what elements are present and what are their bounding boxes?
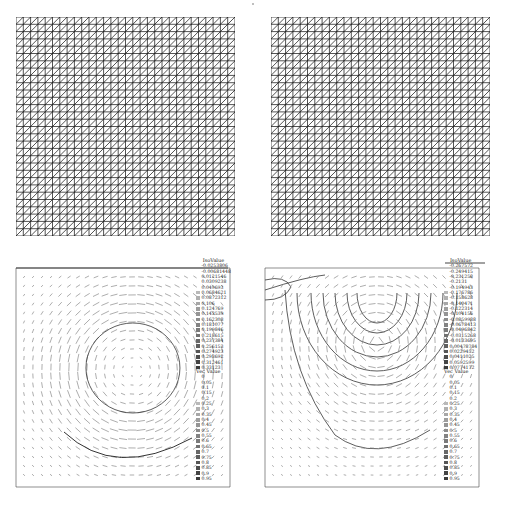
legend-swatch [444,402,448,406]
legend-swatch [444,418,448,422]
legend-value: 0.95 [202,476,212,481]
iso-legend: IsoValue -0.267572-0.249415-0.231258-0.2… [444,258,477,370]
legend-swatch [196,434,200,438]
legend-swatch [444,477,448,481]
iso-contour [347,293,407,333]
legend-swatch [444,445,448,449]
velocity-plot-right: IsoValue -0.267572-0.249415-0.231258-0.2… [255,255,511,505]
legend-swatch [444,323,448,327]
legend-swatch [444,466,448,470]
legend-swatch [196,402,200,406]
legend-swatch [196,334,200,338]
legend-swatch [196,439,200,443]
legend-swatch [444,302,448,306]
mesh-left [16,17,235,236]
legend-swatch [196,275,200,279]
iso-contour [265,279,291,300]
legend-swatch [196,302,200,306]
legend-swatch [196,466,200,470]
iso-contour [311,293,443,371]
legend-swatch [196,477,200,481]
legend-swatch [444,296,448,300]
triangular-mesh [16,17,235,236]
legend-swatch [444,286,448,290]
iso-legend: IsoValue -0.0253806-0.006814480.01215460… [196,258,231,370]
legend-swatch [196,355,200,359]
legend-value: 0.95 [450,476,460,481]
legend-swatch [196,381,200,385]
legend-swatch [444,407,448,411]
legend-swatch [444,344,448,348]
legend-swatch [444,381,448,385]
legend-swatch [444,291,448,295]
legend-swatch [444,386,448,390]
iso-legend-rows: -0.267572-0.249415-0.231258-0.2131-0.194… [444,263,477,370]
legend-swatch [444,334,448,338]
legend-swatch [196,375,200,379]
legend-swatch [196,296,200,300]
legend-swatch [444,280,448,284]
legend-swatch [444,350,448,354]
legend-swatch [444,355,448,359]
legend-swatch [196,360,200,364]
legend-swatch [196,418,200,422]
legend-swatch [444,312,448,316]
iso-legend-rows: -0.0253806-0.006814480.01215460.03092380… [196,263,231,370]
legend-swatch [444,318,448,322]
legend-swatch [444,328,448,332]
legend-swatch [444,270,448,274]
iso-contour [357,293,397,323]
legend-swatch [444,429,448,433]
legend-swatch [444,439,448,443]
vec-legend-rows: 00.050.10.150.20.250.30.350.40.450.50.55… [196,374,220,481]
legend-swatch [196,429,200,433]
iso-contour [323,293,431,357]
legend-swatch [444,434,448,438]
legend-swatch [196,264,200,268]
iso-contour [86,323,180,413]
legend-swatch [196,391,200,395]
legend-swatch [444,339,448,343]
vec-legend-title: Vec Value [196,369,220,374]
legend-swatch [196,407,200,411]
vec-legend: Vec Value 00.050.10.150.20.250.30.350.40… [444,369,468,481]
legend-swatch [444,423,448,427]
legend-swatch [444,455,448,459]
legend-swatch [444,264,448,268]
legend-swatch [444,307,448,311]
velocity-vectors [23,276,223,476]
velocity-plot-left: IsoValue -0.0253806-0.006814480.01215460… [0,255,260,505]
vec-legend-title: Vec Value [444,369,468,374]
legend-swatch [196,450,200,454]
legend-swatch [444,471,448,475]
legend-swatch [196,344,200,348]
legend-swatch [196,471,200,475]
legend-swatch [196,323,200,327]
legend-swatch [196,328,200,332]
iso-contour [265,275,325,290]
legend-swatch [444,397,448,401]
legend-swatch [196,307,200,311]
vec-legend: Vec Value 00.050.10.150.20.250.30.350.40… [196,369,220,481]
iso-contour [64,432,192,458]
legend-swatch [444,450,448,454]
legend-swatch [444,413,448,417]
legend-swatch [196,291,200,295]
legend-swatch [196,397,200,401]
mesh-right [271,17,490,236]
legend-swatch [196,413,200,417]
legend-swatch [196,461,200,465]
legend-swatch [196,339,200,343]
legend-swatch [196,455,200,459]
legend-swatch [444,391,448,395]
legend-swatch [444,275,448,279]
legend-swatch [444,461,448,465]
legend-entry: 0.95 [444,476,468,481]
stray-mark [252,3,254,5]
legend-swatch [444,360,448,364]
legend-swatch [196,280,200,284]
legend-swatch [196,312,200,316]
legend-swatch [196,318,200,322]
legend-swatch [444,375,448,379]
legend-swatch [196,286,200,290]
